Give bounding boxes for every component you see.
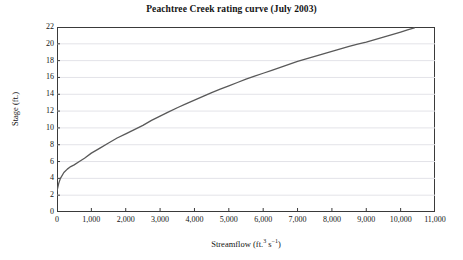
x-axis-tick-label: 5,000 bbox=[220, 216, 238, 224]
y-axis-tick-labels: 0246810121416182022 bbox=[30, 27, 54, 212]
y-axis-label: Stage (ft.) bbox=[10, 44, 20, 174]
y-axis-tick-label: 18 bbox=[46, 57, 54, 65]
x-axis-label: Streamflow (ft.3 s−1) bbox=[57, 238, 435, 249]
plot-svg bbox=[57, 27, 435, 212]
x-axis-tick-label: 6,000 bbox=[254, 216, 272, 224]
y-axis-tick-label: 4 bbox=[50, 174, 54, 182]
x-axis-tick-label: 9,000 bbox=[357, 216, 375, 224]
y-axis-tick-label: 2 bbox=[50, 191, 54, 199]
chart-title: Peachtree Creek rating curve (July 2003) bbox=[0, 4, 463, 14]
y-axis-tick-label: 20 bbox=[46, 40, 54, 48]
y-axis-tick-label: 10 bbox=[46, 124, 54, 132]
y-axis-tick-label: 0 bbox=[50, 208, 54, 216]
y-axis-tick-label: 12 bbox=[46, 107, 54, 115]
x-axis-tick-label: 11,000 bbox=[424, 216, 446, 224]
data-series-line bbox=[57, 28, 414, 191]
x-axis-tick-label: 0 bbox=[55, 216, 59, 224]
x-axis-tick-label: 8,000 bbox=[323, 216, 341, 224]
y-axis-tick-label: 8 bbox=[50, 141, 54, 149]
x-axis-tick-label: 1,000 bbox=[82, 216, 100, 224]
x-axis-tick-label: 10,000 bbox=[390, 216, 412, 224]
x-axis-tick-label: 7,000 bbox=[289, 216, 307, 224]
chart-figure: Peachtree Creek rating curve (July 2003)… bbox=[0, 0, 463, 260]
x-axis-tick-label: 2,000 bbox=[117, 216, 135, 224]
x-axis-tick-label: 3,000 bbox=[151, 216, 169, 224]
y-axis-tick-label: 16 bbox=[46, 73, 54, 81]
y-axis-tick-label: 6 bbox=[50, 158, 54, 166]
x-axis-tick-labels: 01,0002,0003,0004,0005,0006,0007,0008,00… bbox=[57, 216, 435, 228]
x-axis-tick-label: 4,000 bbox=[185, 216, 203, 224]
x-axis-label-end: ) bbox=[278, 239, 281, 249]
y-axis-tick-label: 14 bbox=[46, 90, 54, 98]
y-axis-tick-label: 22 bbox=[46, 23, 54, 31]
x-axis-label-main: Streamflow (ft. bbox=[211, 239, 263, 249]
plot-area bbox=[57, 27, 435, 212]
